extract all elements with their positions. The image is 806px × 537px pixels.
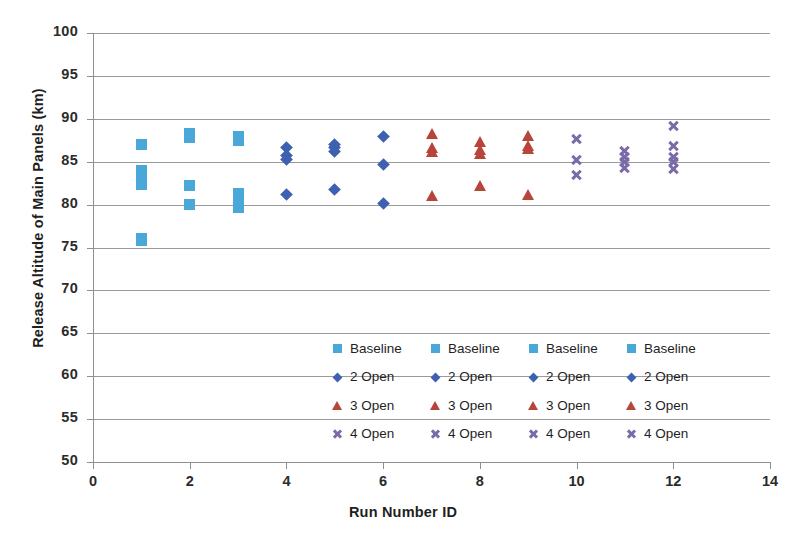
x-tick-label-0: 0 <box>73 473 113 489</box>
x-tick-4 <box>286 462 287 469</box>
data-point <box>426 142 438 153</box>
x-tick-0 <box>93 462 94 469</box>
gridline-y-70 <box>93 290 770 291</box>
legend-label: 2 Open <box>350 369 394 384</box>
y-tick-70 <box>87 290 94 291</box>
data-point <box>377 158 390 171</box>
y-axis-title: Release Altitude of Main Panels (km) <box>30 8 46 428</box>
data-point <box>233 131 244 142</box>
data-point <box>184 128 195 139</box>
cross-marker-icon <box>331 427 345 441</box>
triangle-marker-icon <box>429 398 443 412</box>
x-tick-label-12: 12 <box>653 473 693 489</box>
data-point <box>328 183 341 196</box>
x-tick-label-6: 6 <box>363 473 403 489</box>
data-point <box>571 169 583 181</box>
x-tick-6 <box>383 462 384 469</box>
y-tick-55 <box>87 419 94 420</box>
square-marker-icon <box>527 341 541 355</box>
y-tick-90 <box>87 119 94 120</box>
legend-item-3-open[interactable]: 3 Open <box>331 391 429 420</box>
legend-label: 2 Open <box>546 369 590 384</box>
legend-item-2-open[interactable]: 2 Open <box>331 363 429 392</box>
data-point <box>619 145 631 157</box>
triangle-marker-icon <box>527 398 541 412</box>
legend-item-4-open[interactable]: 4 Open <box>625 420 723 449</box>
data-point <box>233 202 244 213</box>
legend-label: 3 Open <box>546 398 590 413</box>
legend-item-3-open[interactable]: 3 Open <box>527 391 625 420</box>
x-tick-2 <box>190 462 191 469</box>
x-tick-8 <box>480 462 481 469</box>
square-marker-icon <box>331 341 345 355</box>
x-tick-label-2: 2 <box>170 473 210 489</box>
data-point <box>667 120 679 132</box>
data-point <box>184 132 195 143</box>
legend-item-4-open[interactable]: 4 Open <box>331 420 429 449</box>
data-point <box>280 188 293 201</box>
legend-label: 2 Open <box>448 369 492 384</box>
data-point <box>522 143 534 154</box>
y-tick-85 <box>87 162 94 163</box>
legend-item-baseline[interactable]: Baseline <box>331 334 429 363</box>
data-point <box>426 128 438 139</box>
gridline-y-90 <box>93 119 770 120</box>
legend-label: 3 Open <box>448 398 492 413</box>
data-point <box>571 154 583 166</box>
legend-item-4-open[interactable]: 4 Open <box>527 420 625 449</box>
scatter-chart: 50556065707580859095100 Release Altitude… <box>0 0 806 537</box>
data-point <box>136 139 147 150</box>
legend-item-2-open[interactable]: 2 Open <box>527 363 625 392</box>
gridline-y-75 <box>93 248 770 249</box>
square-marker-icon <box>429 341 443 355</box>
data-point <box>619 162 631 174</box>
data-point <box>328 142 341 155</box>
gridline-y-95 <box>93 76 770 77</box>
data-point <box>136 233 147 244</box>
legend-item-baseline[interactable]: Baseline <box>527 334 625 363</box>
legend-label: 2 Open <box>644 369 688 384</box>
y-tick-65 <box>87 333 94 334</box>
x-tick-label-4: 4 <box>266 473 306 489</box>
data-point <box>233 135 244 146</box>
data-point <box>667 140 679 152</box>
data-point <box>136 172 147 183</box>
legend-label: Baseline <box>546 341 598 356</box>
x-axis-line <box>93 462 771 463</box>
legend-label: 3 Open <box>350 398 394 413</box>
x-tick-label-14: 14 <box>750 473 790 489</box>
legend-item-3-open[interactable]: 3 Open <box>625 391 723 420</box>
chart-legend: Baseline2 Open3 Open4 OpenBaseline2 Open… <box>331 334 721 448</box>
x-tick-10 <box>577 462 578 469</box>
x-tick-14 <box>770 462 771 469</box>
legend-column-3: Baseline2 Open3 Open4 Open <box>527 334 625 448</box>
legend-item-baseline[interactable]: Baseline <box>429 334 527 363</box>
legend-label: Baseline <box>644 341 696 356</box>
cross-marker-icon <box>429 427 443 441</box>
cross-marker-icon <box>527 427 541 441</box>
data-point <box>280 141 293 154</box>
data-point <box>233 188 244 199</box>
triangle-marker-icon <box>331 398 345 412</box>
y-tick-80 <box>87 205 94 206</box>
data-point <box>136 179 147 190</box>
gridline-y-80 <box>93 205 770 206</box>
data-point <box>474 136 486 147</box>
data-point <box>474 144 486 155</box>
legend-item-4-open[interactable]: 4 Open <box>429 420 527 449</box>
legend-item-baseline[interactable]: Baseline <box>625 334 723 363</box>
legend-item-3-open[interactable]: 3 Open <box>429 391 527 420</box>
diamond-marker-icon <box>625 370 639 384</box>
data-point <box>426 190 438 201</box>
data-point <box>136 165 147 176</box>
legend-item-2-open[interactable]: 2 Open <box>625 363 723 392</box>
legend-item-2-open[interactable]: 2 Open <box>429 363 527 392</box>
cross-marker-icon <box>625 427 639 441</box>
data-point <box>328 145 341 158</box>
y-tick-60 <box>87 376 94 377</box>
diamond-marker-icon <box>429 370 443 384</box>
x-tick-label-8: 8 <box>460 473 500 489</box>
y-tick-100 <box>87 33 94 34</box>
x-tick-12 <box>673 462 674 469</box>
y-tick-75 <box>87 248 94 249</box>
